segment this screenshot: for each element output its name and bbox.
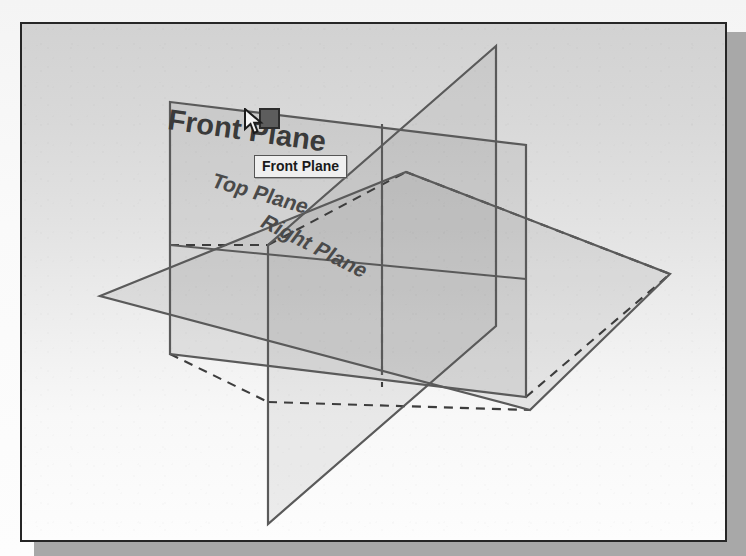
reference-planes-scene [20,22,727,542]
screenshot-root: Front Plane Top Plane Right Plane Front … [0,0,746,556]
mouse-cursor-arrow-icon [244,108,264,136]
plane-tooltip: Front Plane [254,155,347,178]
cad-graphics-area[interactable] [20,22,727,542]
